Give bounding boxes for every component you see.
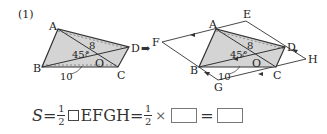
answer-blank-1[interactable] <box>171 108 197 123</box>
right-label-H: H <box>308 53 318 66</box>
left-label-A: A <box>48 20 58 33</box>
area-formula: S = 1 2 EFGH = 1 2 × = <box>32 100 246 130</box>
left-label-B: B <box>33 62 41 75</box>
equals-1: = <box>43 106 56 125</box>
answer-blank-2[interactable] <box>217 108 243 123</box>
right-label-C: C <box>273 69 281 82</box>
left-label-O: O <box>95 57 104 70</box>
times-sign: × <box>155 108 166 123</box>
left-label-C: C <box>117 69 125 82</box>
parallelogram-name: EFGH <box>80 106 130 125</box>
right-diagonal-length: 8 <box>247 40 253 51</box>
left-diagonal-length: 8 <box>89 40 95 51</box>
parallelogram-symbol-icon <box>68 110 79 121</box>
fraction-half-2: 1 2 <box>144 104 152 127</box>
right-label-O: O <box>252 57 261 70</box>
problem-number: (1) <box>18 8 34 21</box>
diagram-canvas: (1) A B C D O 8 45° 10 ➡ A E F B G C <box>0 0 327 100</box>
left-base-length: 10 <box>60 71 73 82</box>
right-label-G: G <box>214 81 223 94</box>
right-label-A: A <box>208 18 218 31</box>
transform-arrow-icon: ➡ <box>141 42 150 55</box>
fraction-half-1: 1 2 <box>57 104 65 127</box>
left-angle: 45° <box>72 49 90 60</box>
equals-2: = <box>130 106 143 125</box>
right-label-E: E <box>243 8 251 21</box>
left-label-D: D <box>131 42 140 55</box>
equals-3: = <box>200 106 213 125</box>
right-base-length: 10 <box>218 71 231 82</box>
right-angle: 45° <box>230 49 248 60</box>
right-label-B: B <box>190 64 198 77</box>
area-symbol: S <box>32 106 43 125</box>
right-label-D: D <box>287 41 296 54</box>
right-label-F: F <box>152 36 160 49</box>
